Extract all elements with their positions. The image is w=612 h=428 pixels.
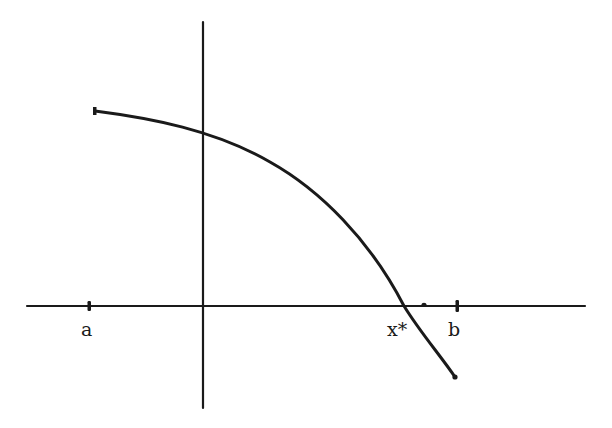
tick-a [88,301,92,311]
tick-dot [422,303,427,307]
label-a: a [81,318,92,340]
curve-start-marker [93,107,97,115]
label-root: x* [387,318,408,340]
diagram-canvas: a x* b [0,0,612,428]
tick-b [456,300,460,312]
function-plot: a x* b [0,0,612,428]
curve-end-marker [452,374,457,379]
label-b: b [448,318,460,340]
